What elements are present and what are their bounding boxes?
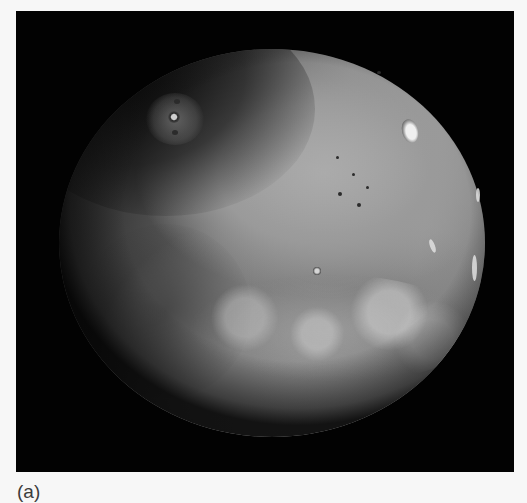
- figure-image-frame: [16, 11, 514, 472]
- bright-limb-streak: [476, 188, 480, 202]
- volcano-caldera: [168, 111, 180, 123]
- surface-spot: [366, 186, 369, 189]
- surface-spot: [352, 173, 355, 176]
- surface-spot: [336, 156, 339, 159]
- surface-spot: [172, 130, 178, 135]
- limb-darkening: [59, 49, 485, 437]
- surface-spot: [338, 192, 342, 196]
- planet-globe: [59, 49, 485, 437]
- figure-caption: (a): [17, 481, 40, 503]
- bright-limb-streak: [472, 255, 477, 281]
- surface-spot: [174, 99, 180, 104]
- surface-spot: [377, 71, 381, 74]
- small-crater: [313, 267, 321, 275]
- surface-spot: [357, 203, 361, 207]
